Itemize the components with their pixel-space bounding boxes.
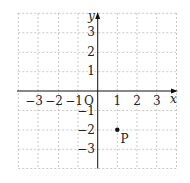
y-tick-label: −1: [77, 104, 95, 118]
x-tick-label: 1: [113, 94, 121, 108]
y-tick-label: 3: [87, 25, 95, 39]
x-tick-label: −3: [25, 94, 43, 108]
y-tick-label: 1: [87, 64, 95, 78]
x-tick-label: 3: [153, 94, 161, 108]
y-tick-label: 2: [87, 45, 95, 59]
point-marker-icon: [115, 128, 119, 132]
x-tick-label: 2: [133, 94, 141, 108]
y-tick-label: −3: [77, 142, 95, 156]
y-tick-label: −2: [77, 123, 95, 137]
coordinate-plane: y x −3 −2 −1 1 2 3 O 3 2 1 −1 −2 −3 P: [0, 0, 190, 183]
x-tick-label: −2: [45, 94, 63, 108]
x-axis-label: x: [170, 92, 177, 106]
point-label: P: [121, 132, 129, 146]
y-axis-label: y: [87, 9, 95, 23]
y-axis: [95, 12, 100, 169]
